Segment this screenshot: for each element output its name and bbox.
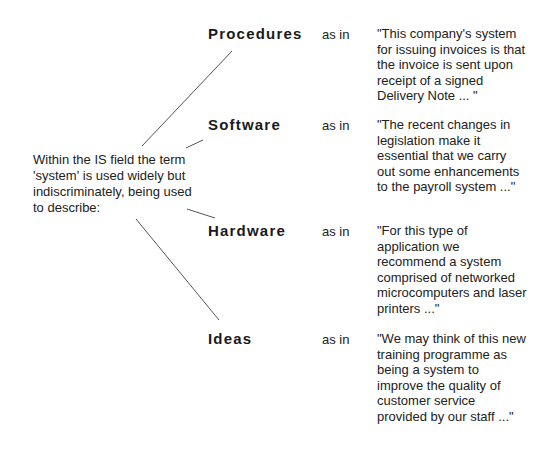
example-ideas: "We may think of this new training progr… — [377, 331, 527, 424]
example-procedures: "This company's system for issuing invoi… — [377, 26, 527, 104]
example-hardware: "For this type of application we recomme… — [377, 223, 527, 316]
connector-procedures: as in — [322, 27, 349, 42]
term-ideas: Ideas — [208, 330, 252, 347]
line-to-software — [186, 140, 203, 148]
connector-software: as in — [322, 118, 349, 133]
term-procedures: Procedures — [208, 25, 303, 42]
example-software: "The recent changes in legislation make … — [377, 117, 527, 195]
term-hardware: Hardware — [208, 222, 286, 239]
intro-text: Within the IS field the term 'system' is… — [33, 152, 193, 216]
connector-ideas: as in — [322, 332, 349, 347]
connector-hardware: as in — [322, 224, 349, 239]
line-to-ideas — [136, 219, 219, 320]
term-software: Software — [208, 116, 281, 133]
